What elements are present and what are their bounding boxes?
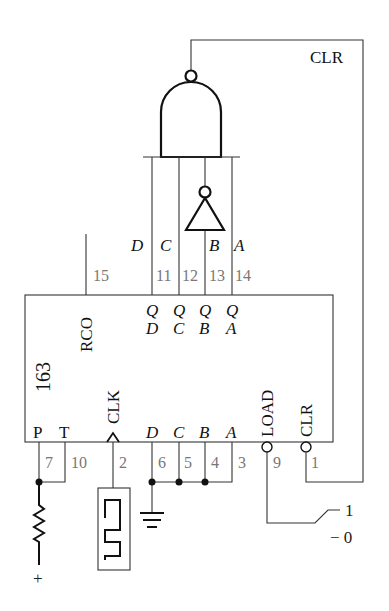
load-label: LOAD — [258, 390, 277, 437]
pin-10: 10 — [71, 454, 87, 471]
resistor-icon — [34, 482, 44, 565]
qd-sub-label: D — [145, 319, 159, 338]
ground-icon — [140, 513, 164, 527]
switch-low-label: − 0 — [330, 528, 352, 547]
load-active-low-bubble — [262, 442, 272, 452]
output-label-d: D — [130, 236, 144, 255]
b-input-label: B — [199, 423, 210, 442]
qd-q-label: Q — [146, 301, 158, 320]
circuit-diagram: CLR D C B A 15 11 12 13 14 RCO 163 Q D Q… — [0, 0, 389, 611]
output-label-a: A — [233, 236, 245, 255]
clr-active-low-bubble — [301, 442, 311, 452]
inverter-icon — [186, 187, 224, 231]
pin-14: 14 — [235, 267, 251, 284]
a-input-label: A — [225, 423, 237, 442]
c-input-label: C — [173, 423, 185, 442]
pin-4: 4 — [211, 454, 219, 471]
spdt-switch-icon[interactable]: 1 − 0 — [330, 501, 354, 547]
pin-12: 12 — [182, 267, 198, 284]
pin-9: 9 — [273, 454, 281, 471]
output-label-c: C — [160, 236, 172, 255]
qc-sub-label: C — [173, 319, 185, 338]
supply-plus-label: + — [33, 569, 43, 588]
pin-1: 1 — [311, 454, 319, 471]
p-label: P — [33, 423, 42, 442]
qb-q-label: Q — [199, 301, 211, 320]
d-input-label: D — [145, 423, 159, 442]
qa-sub-label: A — [225, 319, 237, 338]
pin-5: 5 — [184, 454, 192, 471]
qa-q-label: Q — [226, 301, 238, 320]
pin-13: 13 — [209, 267, 225, 284]
t-label: T — [59, 423, 70, 442]
pin-7: 7 — [45, 454, 53, 471]
pin-6: 6 — [158, 454, 166, 471]
clock-source-icon — [98, 488, 130, 570]
d-junction-dot — [149, 479, 156, 486]
pin-2: 2 — [119, 454, 127, 471]
nand-gate-icon — [161, 71, 221, 158]
nand-output-bubble — [186, 71, 197, 82]
output-label-b: B — [209, 236, 220, 255]
c-junction-dot — [176, 479, 183, 486]
pin-11: 11 — [156, 267, 171, 284]
qb-sub-label: B — [199, 319, 210, 338]
pin-15: 15 — [93, 267, 109, 284]
b-junction-dot — [202, 479, 209, 486]
clr-input-label: CLR — [297, 403, 316, 437]
chip-part-number: 163 — [32, 362, 54, 392]
switch-high-label: 1 — [345, 501, 354, 520]
clock-edge-icon — [107, 433, 119, 442]
qc-q-label: Q — [173, 301, 185, 320]
rco-label: RCO — [77, 317, 96, 352]
pin-3: 3 — [238, 454, 246, 471]
clk-label: CLK — [104, 389, 123, 424]
clr-feedback-label: CLR — [310, 48, 344, 67]
